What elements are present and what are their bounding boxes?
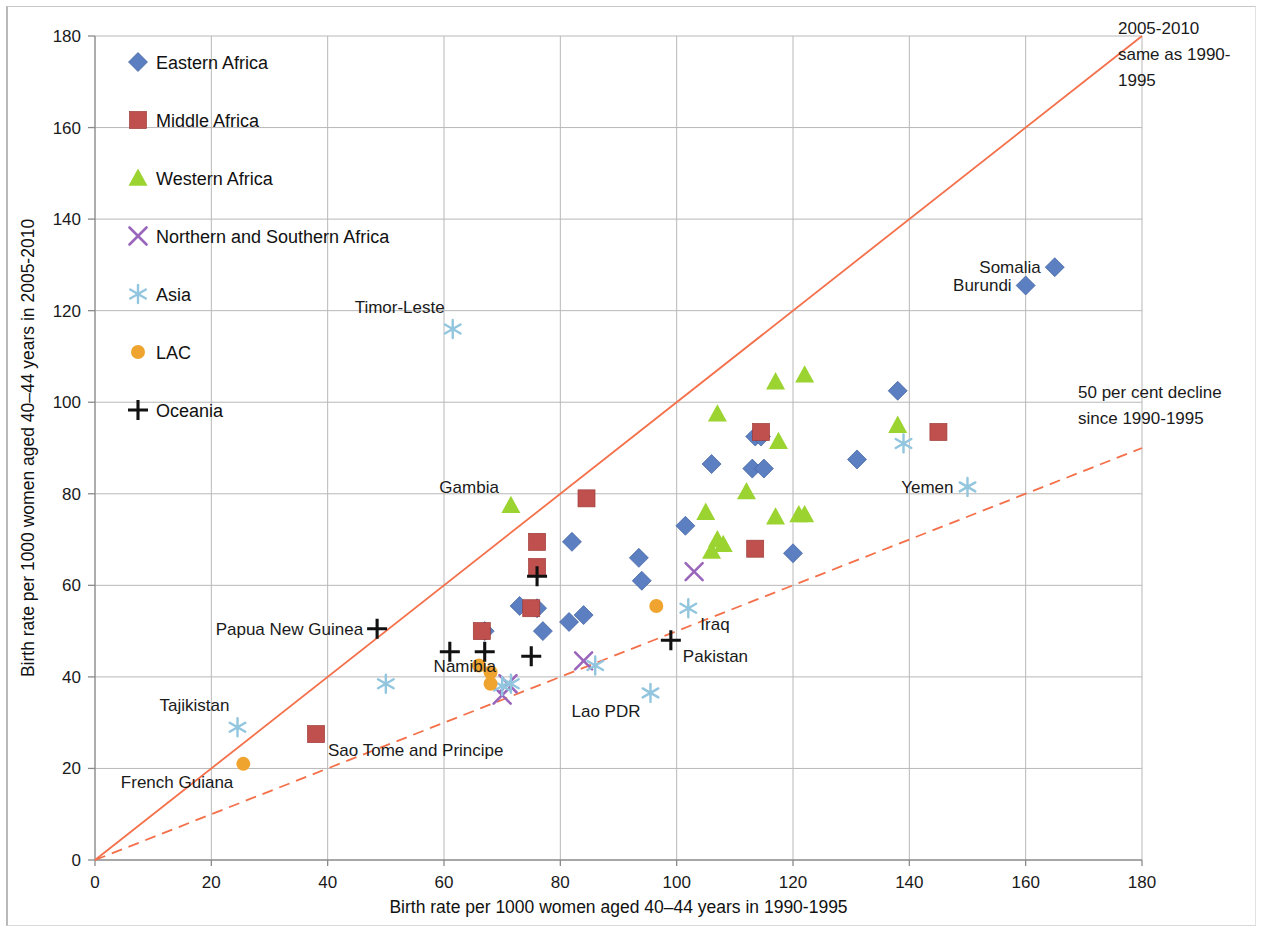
marker-triangle [769,432,788,449]
point-label-papua-new-guinea: Papua New Guinea [216,620,364,639]
marker-square [529,533,546,550]
parity-annotation-line: same as 1990- [1118,45,1230,64]
marker-triangle [888,416,907,433]
marker-diamond [888,381,907,400]
marker-asterisk [378,675,394,693]
point-label-timor-leste: Timor-Leste [355,298,445,317]
marker-circle [649,599,663,613]
marker-triangle [766,507,785,524]
marker-diamond [1045,258,1064,277]
legend-item-northern-and-southern-africa[interactable]: Northern and Southern Africa [130,227,391,247]
marker-plus [661,630,681,650]
decline-annotation-line: since 1990-1995 [1078,409,1204,428]
x-tick-label: 140 [895,873,923,892]
x-tick-label: 0 [90,873,99,892]
point-label-iraq: Iraq [700,615,729,634]
annotations: 2005-2010 same as 1990-199550 per cent d… [1078,19,1230,428]
legend-item-western-africa[interactable]: Western Africa [129,169,274,190]
marker-triangle [501,496,520,513]
legend: Eastern AfricaMiddle AfricaWestern Afric… [128,53,390,422]
series-middle-africa [308,423,947,742]
marker-plus [128,400,148,420]
y-tick-label: 140 [53,210,81,229]
marker-diamond [847,450,866,469]
x-tick-label: 160 [1011,873,1039,892]
marker-plus [521,646,541,666]
half-decline-line [95,448,1142,860]
point-label-somalia: Somalia [979,258,1041,277]
marker-triangle [696,503,715,520]
marker-asterisk [445,320,461,338]
marker-diamond [702,455,721,474]
y-axis-title: Birth rate per 1000 women aged 40–44 yea… [18,219,38,677]
marker-diamond [632,571,651,590]
x-axis-title: Birth rate per 1000 women aged 40–44 yea… [389,897,847,917]
marker-square [523,600,540,617]
y-tick-label: 120 [53,302,81,321]
point-label-namibia: Namibia [434,657,497,676]
marker-diamond [629,548,648,567]
marker-square [747,540,764,557]
legend-item-eastern-africa[interactable]: Eastern Africa [129,53,270,74]
x-tick-label: 20 [202,873,221,892]
legend-label: Northern and Southern Africa [156,227,390,247]
y-tick-label: 160 [53,119,81,138]
y-tick-label: 60 [62,576,81,595]
y-tick-label: 80 [62,485,81,504]
point-label-tajikistan: Tajikistan [160,696,230,715]
marker-square [930,423,947,440]
point-labels: SomaliaBurundiSao Tome and PrincipeGambi… [121,258,1041,792]
marker-diamond [1016,276,1035,295]
marker-asterisk [230,718,246,736]
data-points [230,258,1065,771]
point-label-lao-pdr: Lao PDR [572,702,641,721]
axis-titles: Birth rate per 1000 women aged 40–44 yea… [18,219,848,917]
marker-plus [367,619,387,639]
marker-diamond [562,532,581,551]
legend-item-oceania[interactable]: Oceania [128,400,224,421]
marker-square [308,726,325,743]
marker-diamond [784,544,803,563]
legend-item-asia[interactable]: Asia [130,285,192,305]
decline-annotation-line: 50 per cent decline [1078,383,1222,402]
x-tick-label: 40 [318,873,337,892]
marker-asterisk [680,599,696,617]
y-tick-label: 100 [53,393,81,412]
x-tick-label: 120 [779,873,807,892]
marker-square [473,623,490,640]
marker-triangle [129,169,148,186]
point-label-french-guiana: French Guiana [121,773,234,792]
marker-square [578,490,595,507]
y-tick-label: 40 [62,668,81,687]
point-label-pakistan: Pakistan [683,647,748,666]
marker-asterisk [960,478,976,496]
legend-item-lac[interactable]: LAC [131,343,191,363]
marker-triangle [795,365,814,382]
marker-square [753,423,770,440]
point-label-burundi: Burundi [953,276,1012,295]
point-label-yemen: Yemen [901,478,953,497]
marker-circle [131,345,145,359]
legend-label: Middle Africa [156,111,260,131]
legend-label: Asia [156,285,192,305]
y-tick-label: 0 [72,851,81,870]
marker-asterisk [130,285,146,303]
marker-triangle [737,482,756,499]
x-tick-label: 100 [662,873,690,892]
legend-label: Eastern Africa [156,53,269,73]
series-asia [230,320,976,736]
marker-x [686,563,703,580]
marker-diamond [754,459,773,478]
marker-circle [236,757,250,771]
marker-asterisk [643,684,659,702]
chart-svg: 0204060801001201401601800204060801001201… [0,0,1264,937]
point-label-sao-tome-and-principe: Sao Tome and Principe [328,741,503,760]
x-tick-label: 60 [435,873,454,892]
marker-square [130,112,147,129]
series-eastern-africa [475,258,1064,641]
marker-x [130,228,147,245]
marker-diamond [129,53,148,72]
parity-annotation-line: 1995 [1118,71,1156,90]
marker-diamond [533,622,552,641]
y-tick-label: 20 [62,759,81,778]
